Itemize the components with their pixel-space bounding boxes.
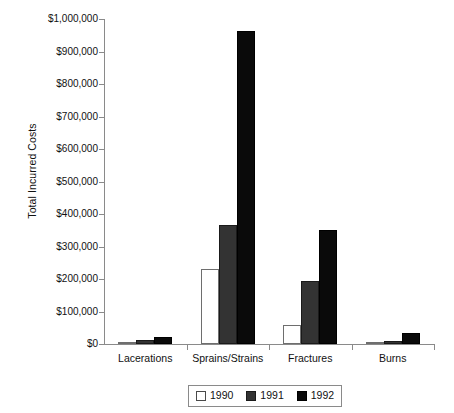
legend-swatch-icon-1990 (196, 391, 206, 401)
y-axis-tick-label: $100,000 (18, 307, 98, 317)
y-axis-tick-mark (99, 312, 104, 313)
y-axis-tick-label: $600,000 (18, 144, 98, 154)
x-axis-label-fractures: Fractures (269, 352, 352, 364)
y-axis-tick-label: $300,000 (18, 242, 98, 252)
x-axis-label-sprains-strains: Sprains/Strains (187, 352, 270, 364)
y-axis-tick-mark (99, 279, 104, 280)
y-axis-tick-mark (99, 149, 104, 150)
y-axis-tick-mark (99, 117, 104, 118)
legend-swatch-icon-1992 (297, 391, 307, 401)
x-axis-divider (434, 344, 435, 350)
y-axis-line (104, 19, 105, 345)
y-axis-tick-label: $0 (18, 339, 98, 349)
legend-item-1992: 1992 (297, 390, 334, 401)
bar-sprains-strains-1990 (201, 269, 219, 344)
legend-label: 1991 (260, 390, 283, 401)
legend-label: 1990 (210, 390, 233, 401)
bar-lacerations-1991 (136, 340, 154, 344)
plot-area (104, 19, 434, 344)
bar-sprains-strains-1992 (237, 31, 255, 344)
chart-legend: 199019911992 (188, 385, 342, 407)
legend-swatch-icon-1991 (246, 391, 256, 401)
y-axis-tick-label: $500,000 (18, 177, 98, 187)
bar-sprains-strains-1991 (219, 225, 237, 344)
bar-lacerations-1992 (154, 337, 172, 344)
x-axis-label-lacerations: Lacerations (104, 352, 187, 364)
y-axis-tick-mark (99, 52, 104, 53)
legend-item-1991: 1991 (246, 390, 283, 401)
y-axis-tick-mark (99, 182, 104, 183)
legend-item-1990: 1990 (196, 390, 233, 401)
x-axis-label-burns: Burns (352, 352, 435, 364)
y-axis-tick-label: $400,000 (18, 209, 98, 219)
x-axis-divider (187, 344, 188, 350)
y-axis-tick-label: $700,000 (18, 112, 98, 122)
bar-group (118, 19, 172, 344)
bar-group (366, 19, 420, 344)
bar-lacerations-1990 (118, 342, 136, 344)
y-axis-tick-mark (99, 247, 104, 248)
y-axis-tick-mark (99, 84, 104, 85)
bar-chart: Total Incurred Costs $0$100,000$200,000$… (0, 0, 454, 413)
x-axis-divider (352, 344, 353, 350)
bar-burns-1991 (384, 341, 402, 344)
y-axis-tick-mark (99, 214, 104, 215)
bar-group (201, 19, 255, 344)
bar-group (283, 19, 337, 344)
bar-fractures-1990 (283, 325, 301, 344)
bar-fractures-1992 (319, 230, 337, 344)
bar-burns-1992 (402, 333, 420, 344)
x-axis-divider (269, 344, 270, 350)
x-axis-category-labels: LacerationsSprains/StrainsFracturesBurns (104, 352, 434, 368)
y-axis-tick-label: $800,000 (18, 79, 98, 89)
bar-fractures-1991 (301, 281, 319, 344)
y-axis-tick-label: $900,000 (18, 47, 98, 57)
y-axis-tick-label: $200,000 (18, 274, 98, 284)
y-axis-tick-mark (99, 19, 104, 20)
legend-label: 1992 (311, 390, 334, 401)
y-axis-tick-mark (99, 344, 104, 345)
y-axis-tick-label: $1,000,000 (18, 14, 98, 24)
y-axis-tick-labels: $0$100,000$200,000$300,000$400,000$500,0… (13, 0, 98, 413)
bar-burns-1990 (366, 342, 384, 344)
